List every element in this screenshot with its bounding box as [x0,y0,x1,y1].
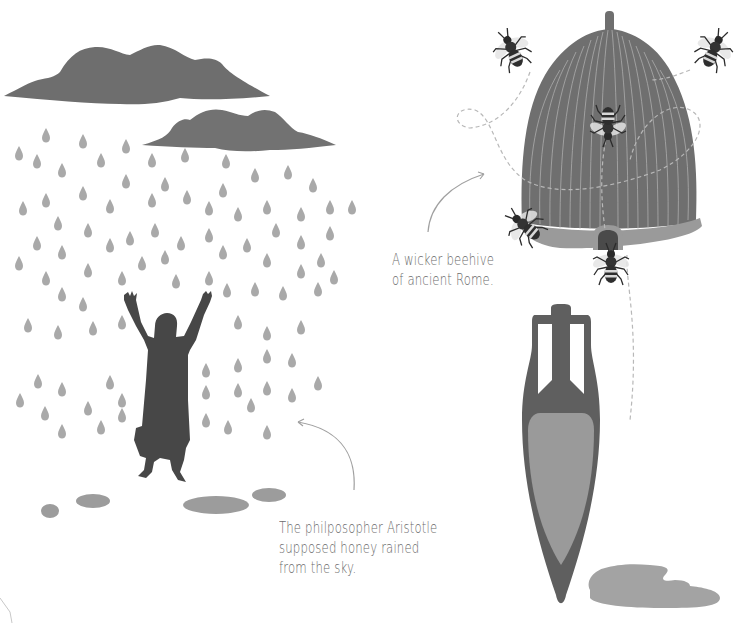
bee-top-right [687,22,741,77]
large-cloud [4,45,270,104]
ground-puddles [41,488,286,518]
aristotle-caption-line-2: supposed honey rained [279,538,437,558]
aristotle-silhouette [124,291,212,482]
bee-top-left [484,22,538,77]
honey-amphora [522,304,600,603]
small-cloud [142,109,336,151]
page-corner-fragment [0,598,12,623]
aristotle-caption: The philposopher Aristotle supposed hone… [279,518,437,578]
beehive-caption: A wicker beehive of ancient Rome. [392,250,494,290]
arrow-to-beehive [428,174,484,232]
beehive-caption-line-1: A wicker beehive [392,250,494,270]
honey-spill [589,564,720,608]
aristotle-caption-line-1: The philposopher Aristotle [279,518,437,538]
aristotle-caption-line-3: from the sky. [279,558,437,578]
arrow-to-rain [298,422,354,490]
beehive-caption-line-2: of ancient Rome. [392,270,494,290]
